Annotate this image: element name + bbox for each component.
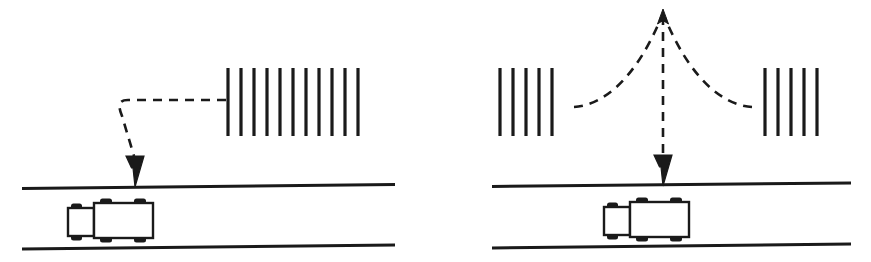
diagram-root [0, 0, 871, 262]
truck [604, 198, 689, 242]
truck-cab [604, 207, 630, 235]
truck-trailer [630, 202, 689, 237]
truck-cab [68, 208, 94, 236]
truck [68, 199, 153, 243]
diagram-canvas [0, 0, 871, 262]
truck-trailer [94, 203, 153, 238]
